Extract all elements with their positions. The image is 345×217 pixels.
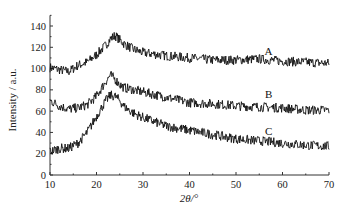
y-tick-label: 140 (30, 21, 46, 32)
series-lines (50, 32, 329, 154)
series-label-c: C (265, 125, 272, 137)
x-tick-label: 30 (138, 179, 149, 190)
series-line-a (50, 32, 329, 74)
series-label-b: B (265, 88, 272, 100)
y-tick-label: 0 (41, 170, 46, 181)
y-axis-title: Intensity / a.u. (6, 68, 18, 131)
x-tick-label: 60 (277, 179, 288, 190)
series-line-b (50, 72, 329, 115)
y-tick-label: 40 (36, 127, 47, 138)
x-tick-label: 20 (91, 179, 102, 190)
x-tick-label: 70 (324, 179, 335, 190)
x-tick-label: 40 (184, 179, 195, 190)
y-tick-label: 20 (36, 148, 47, 159)
x-tick-label: 50 (231, 179, 242, 190)
series-label-a: A (265, 45, 273, 57)
xrd-chart: 10203040506070020406080100120140 ABC 2θ/… (0, 0, 345, 217)
x-tick-label: 10 (45, 179, 56, 190)
y-tick-label: 60 (36, 106, 47, 117)
y-tick-label: 80 (36, 84, 47, 95)
y-tick-label: 100 (30, 63, 46, 74)
x-axis-title: 2θ/° (180, 192, 199, 204)
y-tick-label: 120 (30, 42, 46, 53)
